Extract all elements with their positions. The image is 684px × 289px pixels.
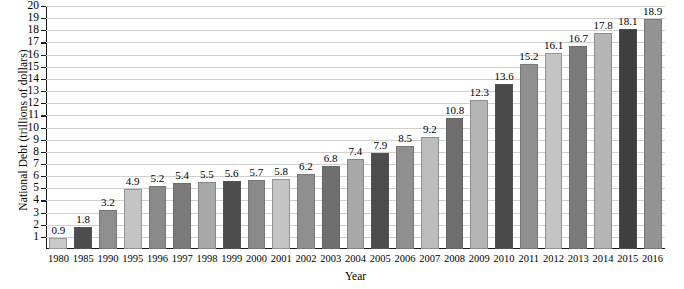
bar[interactable] — [421, 137, 439, 249]
bar[interactable] — [545, 53, 563, 249]
x-axis-tick-label: 2016 — [642, 254, 663, 265]
bar[interactable] — [74, 227, 92, 249]
x-axis-tick-label: 2003 — [320, 254, 341, 265]
bar-value-label: 9.2 — [423, 124, 437, 135]
bar-group[interactable]: 4.9 — [124, 6, 142, 249]
x-axis-tick-label: 2010 — [494, 254, 515, 265]
bars-layer: 0.91.83.24.95.25.45.55.65.75.86.26.87.47… — [46, 6, 665, 249]
bar-group[interactable]: 17.8 — [594, 6, 612, 249]
x-axis-tick-label: 2000 — [246, 254, 267, 265]
bar-group[interactable]: 18.1 — [619, 6, 637, 249]
y-axis-tick-label: 14 — [28, 73, 40, 85]
x-axis-tick-label: 1996 — [147, 254, 168, 265]
bar-value-label: 5.8 — [274, 166, 288, 177]
bar-group[interactable]: 5.2 — [149, 6, 167, 249]
bar-value-label: 7.4 — [349, 146, 363, 157]
x-axis-tick-label: 1998 — [196, 254, 217, 265]
bar-group[interactable]: 5.6 — [223, 6, 241, 249]
bar-value-label: 12.3 — [470, 87, 489, 98]
x-axis-tick-label: 2012 — [543, 254, 564, 265]
y-axis-tick-label: 11 — [28, 110, 39, 122]
bar-group[interactable]: 16.7 — [569, 6, 587, 249]
y-axis-tick-label: 3 — [33, 207, 39, 219]
bar-group[interactable]: 1.8 — [74, 6, 92, 249]
bar-value-label: 3.2 — [101, 197, 115, 208]
x-axis-tick-label: 1980 — [48, 254, 69, 265]
bar-value-label: 18.1 — [618, 16, 637, 27]
y-axis-tick-label: 12 — [28, 97, 40, 109]
bar-value-label: 8.5 — [398, 133, 412, 144]
bar-value-label: 5.5 — [200, 169, 214, 180]
x-axis-tick-label: 1995 — [122, 254, 143, 265]
bar-value-label: 5.2 — [151, 173, 165, 184]
x-axis-tick-label: 2015 — [617, 254, 638, 265]
bar-group[interactable]: 0.9 — [49, 6, 67, 249]
bar[interactable] — [272, 179, 290, 249]
y-axis-tick-label: 9 — [33, 134, 39, 146]
bar[interactable] — [569, 46, 587, 249]
bar-value-label: 18.9 — [643, 6, 662, 17]
bar-group[interactable]: 7.4 — [347, 6, 365, 249]
bar-group[interactable]: 6.2 — [297, 6, 315, 249]
y-axis-tick-label: 1 — [33, 231, 39, 243]
bar-group[interactable]: 3.2 — [99, 6, 117, 249]
bar[interactable] — [49, 238, 67, 249]
bar-group[interactable]: 10.8 — [446, 6, 464, 249]
bar[interactable] — [594, 33, 612, 249]
bar[interactable] — [520, 64, 538, 249]
x-axis-tick-label: 2005 — [370, 254, 391, 265]
bar-group[interactable]: 9.2 — [421, 6, 439, 249]
x-axis-tick-label: 2006 — [395, 254, 416, 265]
bar[interactable] — [149, 186, 167, 249]
bar[interactable] — [371, 153, 389, 249]
x-axis-tick-label: 2008 — [444, 254, 465, 265]
bar-group[interactable]: 5.5 — [198, 6, 216, 249]
bar-value-label: 1.8 — [76, 214, 90, 225]
bar-group[interactable]: 5.7 — [248, 6, 266, 249]
bar[interactable] — [396, 146, 414, 249]
bar-value-label: 6.8 — [324, 153, 338, 164]
bar-value-label: 0.9 — [51, 225, 65, 236]
x-axis-tick-label: 1985 — [73, 254, 94, 265]
bar-group[interactable]: 5.4 — [173, 6, 191, 249]
bar[interactable] — [223, 181, 241, 249]
bar-value-label: 4.9 — [126, 176, 140, 187]
bar-group[interactable]: 16.1 — [545, 6, 563, 249]
x-axis-tick-label: 2014 — [593, 254, 614, 265]
bar[interactable] — [248, 180, 266, 249]
bar-value-label: 5.4 — [175, 170, 189, 181]
bar-group[interactable]: 6.8 — [322, 6, 340, 249]
bar[interactable] — [297, 174, 315, 249]
bar-group[interactable]: 7.9 — [371, 6, 389, 249]
x-axis-tick-label: 2009 — [469, 254, 490, 265]
x-axis-tick-label: 2001 — [271, 254, 292, 265]
bar-value-label: 7.9 — [373, 140, 387, 151]
bar[interactable] — [198, 182, 216, 249]
y-axis-tick-label: 19 — [28, 12, 40, 24]
bar[interactable] — [347, 159, 365, 249]
x-axis-tick-label: 2004 — [345, 254, 366, 265]
bar-group[interactable]: 12.3 — [470, 6, 488, 249]
x-axis-tick-label: 1999 — [221, 254, 242, 265]
bar[interactable] — [644, 19, 662, 249]
bar-group[interactable]: 15.2 — [520, 6, 538, 249]
bar[interactable] — [446, 118, 464, 249]
bar[interactable] — [99, 210, 117, 249]
bar-group[interactable]: 18.9 — [644, 6, 662, 249]
x-axis-tick-label: 1990 — [97, 254, 118, 265]
bar[interactable] — [173, 183, 191, 249]
y-axis-tick-label: 8 — [33, 146, 39, 158]
bar[interactable] — [322, 166, 340, 249]
bar[interactable] — [124, 189, 142, 249]
x-axis-tick-label: 2007 — [419, 254, 440, 265]
bar-chart: National Debt (trillions of dollars) 201… — [0, 0, 684, 289]
bar[interactable] — [470, 100, 488, 249]
bar-group[interactable]: 5.8 — [272, 6, 290, 249]
bar-group[interactable]: 13.6 — [495, 6, 513, 249]
y-axis-tick-label: 5 — [33, 183, 39, 195]
bar-value-label: 10.8 — [445, 105, 464, 116]
y-axis-tick-label: 20 — [28, 0, 40, 12]
bar[interactable] — [619, 29, 637, 249]
bar[interactable] — [495, 84, 513, 249]
bar-group[interactable]: 8.5 — [396, 6, 414, 249]
